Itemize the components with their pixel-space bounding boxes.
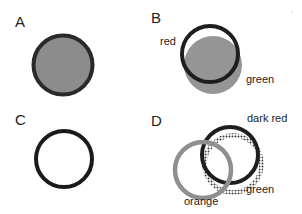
panel-d: D dark red green orange (151, 112, 287, 207)
panel-a: A (15, 13, 93, 95)
panel-b-label: B (151, 9, 161, 26)
green-annotation-d: green (246, 183, 274, 195)
panel-c-label: C (15, 111, 26, 128)
panel-b: B red green (151, 9, 293, 94)
panel-d-label: D (151, 112, 162, 129)
orange-annotation: orange (184, 195, 218, 207)
panel-c: C (15, 111, 92, 187)
panel-a-label: A (15, 13, 25, 30)
figure-canvas: A B red green C D dark red green orange (0, 0, 302, 214)
empty-ring (36, 131, 92, 187)
red-annotation: red (160, 35, 176, 47)
dark-red-annotation: dark red (247, 112, 287, 124)
speck (291, 11, 293, 13)
filled-circle (34, 36, 93, 95)
green-annotation: green (246, 73, 274, 85)
green-disc (184, 36, 242, 94)
